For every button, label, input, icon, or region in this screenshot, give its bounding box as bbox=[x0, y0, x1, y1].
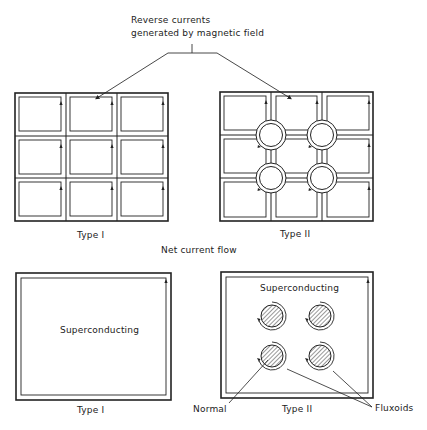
type1-region-label: Superconducting bbox=[60, 325, 139, 335]
normal-label: Normal bbox=[193, 404, 227, 414]
top-type1-label: Type I bbox=[77, 230, 104, 240]
net-current-label: Net current flow bbox=[161, 245, 237, 255]
type2-region-label: Superconducting bbox=[260, 283, 339, 293]
annotation-line1: Reverse currents bbox=[131, 15, 210, 25]
type1-bulk bbox=[16, 273, 171, 400]
top-type2-label: Type II bbox=[280, 229, 310, 239]
annotation-line2: generated by magnetic field bbox=[131, 28, 264, 38]
diagram-canvas bbox=[0, 0, 427, 430]
fluxoids-label: Fluxoids bbox=[375, 403, 413, 413]
fluxoids bbox=[257, 302, 334, 370]
bottom-type1-label: Type I bbox=[77, 405, 104, 415]
type1-grid bbox=[15, 93, 168, 221]
annotation-connector bbox=[97, 44, 290, 98]
callout-lines bbox=[229, 360, 372, 407]
type2-grid bbox=[220, 92, 373, 221]
bottom-type2-label: Type II bbox=[282, 404, 312, 414]
